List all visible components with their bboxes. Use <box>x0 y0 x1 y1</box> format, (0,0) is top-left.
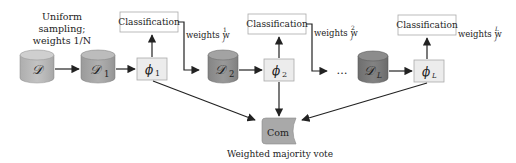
classifier-phil: ϕ L <box>414 60 444 82</box>
svg-text:Classification: Classification <box>118 17 180 27</box>
combiner-com: Com <box>262 118 296 144</box>
svg-text:Uniform: Uniform <box>42 11 82 22</box>
ellipsis: … <box>337 64 348 77</box>
svg-text:2: 2 <box>351 24 355 31</box>
svg-text:1: 1 <box>223 26 227 33</box>
dataset-dl-cylinder-icon: 𝒟 L <box>358 51 388 83</box>
svg-text:L: L <box>494 25 499 32</box>
svg-text:1: 1 <box>155 69 160 78</box>
sampling-note: Uniform sampling; weights 1/N <box>33 11 91 46</box>
arrow-phi1-to-combiner <box>153 81 255 120</box>
combiner-caption: Weighted majority vote <box>227 149 333 159</box>
arrow-phil-to-combiner <box>302 83 427 120</box>
svg-text:ϕ: ϕ <box>422 65 430 79</box>
svg-text:ϕ: ϕ <box>272 64 280 78</box>
boosting-diagram: Uniform sampling; weights 1/N 𝒟 𝒟 1 ϕ 1 … <box>0 0 516 163</box>
dataset-d-cylinder-icon: 𝒟 <box>20 50 54 83</box>
weights-label-1: weights w 1 j <box>186 26 230 43</box>
svg-text:sampling;: sampling; <box>38 23 85 34</box>
svg-text:2: 2 <box>229 69 234 79</box>
svg-text:ϕ: ϕ <box>145 63 153 77</box>
classifier-phi2: ϕ 2 <box>264 59 294 81</box>
dataset-d1-cylinder-icon: 𝒟 1 <box>81 50 115 83</box>
svg-text:L: L <box>431 72 437 80</box>
dataset-d2-cylinder-icon: 𝒟 2 <box>208 50 238 83</box>
svg-text:Com: Com <box>267 127 289 138</box>
svg-text:weights 1/N: weights 1/N <box>33 35 91 46</box>
classification-box-1: Classification <box>118 12 180 32</box>
svg-text:2: 2 <box>282 70 287 79</box>
weights-label-l: weights w L j <box>458 25 502 42</box>
classifier-phi1: ϕ 1 <box>137 58 167 80</box>
svg-text:Classification: Classification <box>396 20 458 30</box>
weights-label-2: weights w 2 j <box>314 24 358 41</box>
svg-text:Classification: Classification <box>246 19 308 29</box>
classification-box-2: Classification <box>246 14 308 34</box>
svg-text:L: L <box>376 71 382 80</box>
svg-text:1: 1 <box>104 69 109 79</box>
classification-box-l: Classification <box>396 15 458 35</box>
